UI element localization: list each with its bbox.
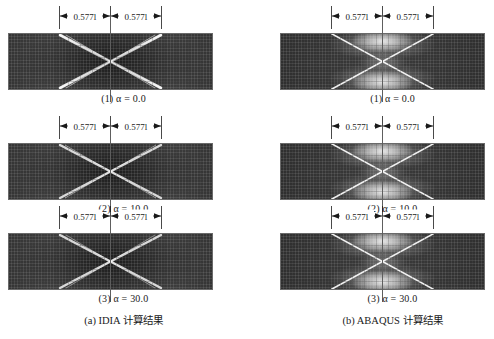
center-line [382,216,383,302]
dimension-label-right: 0.577l [397,122,420,132]
dimension-label-left: 0.577l [346,212,369,222]
dimension-label-left: 0.577l [74,212,97,222]
dimension-svg: 0.577l 0.577l [0,204,247,230]
panel-column-abaqus: 0.577l 0.577l (1 [247,0,494,339]
dimension-label-left: 0.577l [346,122,369,132]
dimension-annotation: 0.577l 0.577l [0,4,247,30]
dimension-label-right: 0.577l [125,12,148,22]
dimension-svg: 0.577l 0.577l [247,114,494,140]
dimension-svg: 0.577l 0.577l [0,114,247,140]
dimension-annotation: 0.577l 0.577l [247,4,494,30]
subfigure-caption: (3) α = 30.0 [247,293,494,304]
dimension-label-left: 0.577l [346,12,369,22]
dimension-label-right: 0.577l [125,212,148,222]
center-line [110,16,111,102]
dimension-svg: 0.577l 0.577l [247,204,494,230]
column-caption-idia: (a) IDIA 计算结果 [0,312,274,327]
dimension-svg: 0.577l 0.577l [0,4,247,30]
center-line [110,216,111,302]
panel-column-idia: 0.577l 0.577l [0,0,247,339]
dimension-annotation: 0.577l 0.577l [0,204,247,230]
subfigure-caption: (1) α = 0.0 [0,93,274,104]
figure-shear-band-comparison: 0.577l 0.577l [0,0,494,339]
dimension-label-left: 0.577l [74,12,97,22]
column-caption-abaqus: (b) ABAQUS 计算结果 [247,312,494,327]
dimension-label-left: 0.577l [74,122,97,132]
subfigure-caption: (1) α = 0.0 [247,93,494,104]
center-line [382,16,383,102]
dimension-annotation: 0.577l 0.577l [247,204,494,230]
dimension-svg: 0.577l 0.577l [247,4,494,30]
center-line [110,126,111,212]
subfigure-caption: (3) α = 30.0 [0,293,274,304]
dimension-label-right: 0.577l [397,212,420,222]
dimension-annotation: 0.577l 0.577l [247,114,494,140]
center-line [382,126,383,212]
dimension-annotation: 0.577l 0.577l [0,114,247,140]
dimension-label-right: 0.577l [125,122,148,132]
dimension-label-right: 0.577l [397,12,420,22]
